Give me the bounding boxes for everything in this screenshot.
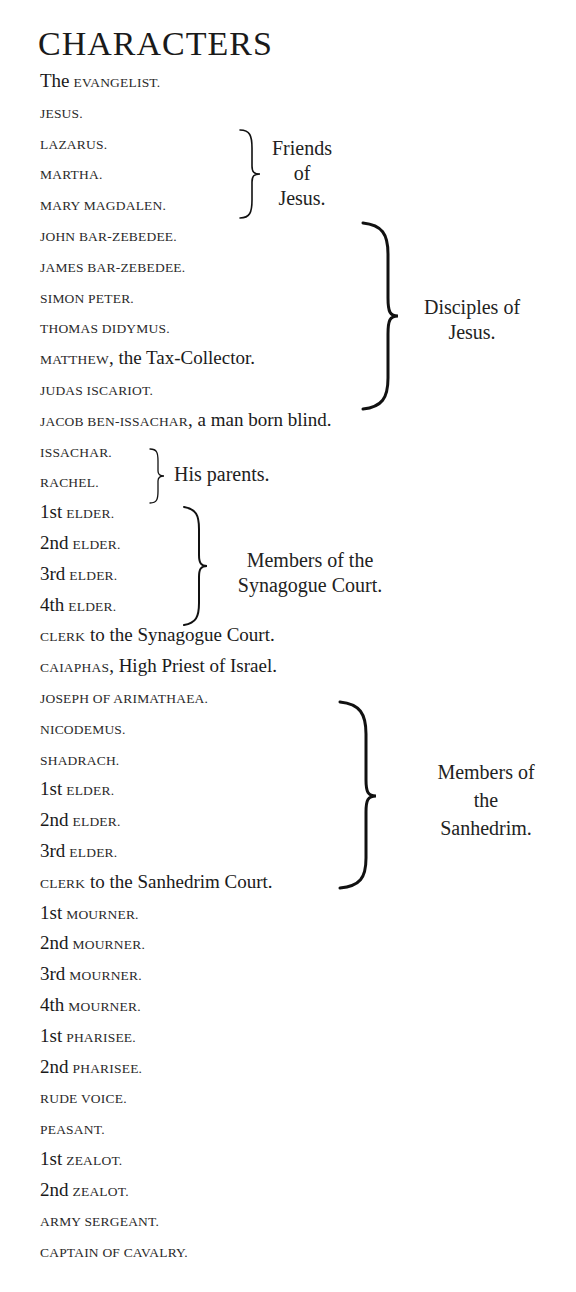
- character-ordinal: 2nd: [40, 1056, 69, 1077]
- character-ordinal: 1st: [40, 1025, 62, 1046]
- character-name: ELDER.: [69, 568, 117, 583]
- character-row: ARMY SERGEANT.: [40, 1205, 332, 1236]
- character-name: ZEALOT.: [66, 1153, 122, 1168]
- group-label-disciples: Disciples of Jesus.: [392, 295, 552, 345]
- character-name: THOMAS DIDYMUS.: [40, 321, 170, 336]
- label-line: Jesus.: [392, 320, 552, 345]
- page-title: CHARACTERS: [38, 24, 273, 64]
- character-ordinal: 2nd: [40, 932, 69, 953]
- label-line: the: [416, 786, 556, 814]
- character-name: RUDE VOICE.: [40, 1091, 127, 1106]
- character-row: JESUS.: [40, 97, 332, 128]
- character-description: , the Tax-Collector.: [109, 347, 255, 368]
- character-ordinal: 1st: [40, 1148, 62, 1169]
- character-row: JACOB BEN-ISSACHAR, a man born blind.: [40, 405, 332, 436]
- character-name: ELDER.: [66, 783, 114, 798]
- character-ordinal: The: [40, 70, 70, 91]
- character-row: CAIAPHAS, High Priest of Israel.: [40, 651, 332, 682]
- character-description: to the Synagogue Court.: [85, 624, 274, 645]
- character-name: JESUS.: [40, 106, 83, 121]
- brace-sanhedrim-icon: [336, 698, 378, 892]
- character-name: ISSACHAR.: [40, 445, 112, 460]
- character-row: SIMON PETER.: [40, 282, 332, 313]
- character-name: JUDAS ISCARIOT.: [40, 383, 153, 398]
- character-row: JAMES BAR-ZEBEDEE.: [40, 251, 332, 282]
- character-name: CLERK: [40, 876, 85, 891]
- character-description: , High Priest of Israel.: [109, 655, 277, 676]
- character-ordinal: 4th: [40, 594, 64, 615]
- character-name: EVANGELIST.: [74, 75, 161, 90]
- character-name: MOURNER.: [69, 968, 141, 983]
- group-label-sanhedrim: Members of the Sanhedrim.: [416, 758, 556, 842]
- character-row: NICODEMUS.: [40, 713, 332, 744]
- character-ordinal: 1st: [40, 778, 62, 799]
- character-name: RACHEL.: [40, 475, 99, 490]
- character-name: MOURNER.: [66, 907, 138, 922]
- character-ordinal: 1st: [40, 501, 62, 522]
- character-row: JOHN BAR-ZEBEDEE.: [40, 220, 332, 251]
- label-line: Synagogue Court.: [200, 573, 420, 598]
- character-description: to the Sanhedrim Court.: [85, 871, 272, 892]
- character-name: ELDER.: [68, 599, 116, 614]
- character-name: MARY MAGDALEN.: [40, 198, 166, 213]
- character-ordinal: 3rd: [40, 840, 65, 861]
- character-name: ARMY SERGEANT.: [40, 1214, 159, 1229]
- character-row: PEASANT.: [40, 1113, 332, 1144]
- character-row: 3rd MOURNER.: [40, 959, 332, 990]
- character-row: MATTHEW, the Tax-Collector.: [40, 343, 332, 374]
- group-label-friends: Friends of Jesus.: [260, 136, 344, 211]
- character-row: CLERK to the Sanhedrim Court.: [40, 867, 332, 898]
- label-line: Sanhedrim.: [416, 814, 556, 842]
- group-label-parents: His parents.: [174, 462, 314, 487]
- character-name: ELDER.: [73, 537, 121, 552]
- character-name: ZEALOT.: [73, 1184, 129, 1199]
- character-ordinal: 2nd: [40, 809, 69, 830]
- character-list: The EVANGELIST.JESUS.LAZARUS.MARTHA.MARY…: [40, 66, 332, 1267]
- character-ordinal: 2nd: [40, 1179, 69, 1200]
- label-line: Friends: [260, 136, 344, 161]
- character-name: SIMON PETER.: [40, 291, 134, 306]
- character-name: PHARISEE.: [66, 1030, 136, 1045]
- character-name: LAZARUS.: [40, 137, 107, 152]
- character-row: 2nd ZEALOT.: [40, 1175, 332, 1206]
- character-description: , a man born blind.: [188, 409, 332, 430]
- character-row: 3rd ELDER.: [40, 836, 332, 867]
- character-row: 1st ZEALOT.: [40, 1144, 332, 1175]
- group-label-synagogue: Members of the Synagogue Court.: [200, 548, 420, 598]
- character-name: MOURNER.: [68, 999, 140, 1014]
- label-line: Members of: [416, 758, 556, 786]
- character-name: MATTHEW: [40, 352, 109, 367]
- character-name: ELDER.: [66, 506, 114, 521]
- character-name: CLERK: [40, 629, 85, 644]
- character-name: JOSEPH OF ARIMATHAEA.: [40, 691, 208, 706]
- character-ordinal: 4th: [40, 994, 64, 1015]
- label-line: Members of the: [200, 548, 420, 573]
- character-row: 1st PHARISEE.: [40, 1021, 332, 1052]
- character-name: ELDER.: [73, 814, 121, 829]
- label-line: Jesus.: [260, 186, 344, 211]
- character-name: SHADRACH.: [40, 753, 119, 768]
- character-ordinal: 3rd: [40, 563, 65, 584]
- character-name: NICODEMUS.: [40, 722, 126, 737]
- character-row: CAPTAIN OF CAVALRY.: [40, 1236, 332, 1267]
- character-row: JOSEPH OF ARIMATHAEA.: [40, 682, 332, 713]
- character-name: MOURNER.: [73, 937, 145, 952]
- character-row: 2nd MOURNER.: [40, 928, 332, 959]
- character-name: CAPTAIN OF CAVALRY.: [40, 1245, 188, 1260]
- character-ordinal: 3rd: [40, 963, 65, 984]
- character-ordinal: 1st: [40, 902, 62, 923]
- character-row: SHADRACH.: [40, 744, 332, 775]
- character-row: 4th MOURNER.: [40, 990, 332, 1021]
- character-row: 1st ELDER.: [40, 774, 332, 805]
- character-name: CAIAPHAS: [40, 660, 109, 675]
- label-line: Disciples of: [392, 295, 552, 320]
- character-row: RUDE VOICE.: [40, 1082, 332, 1113]
- character-row: THOMAS DIDYMUS.: [40, 312, 332, 343]
- character-row: 1st MOURNER.: [40, 898, 332, 929]
- character-name: MARTHA.: [40, 167, 102, 182]
- label-line: His parents.: [174, 462, 314, 487]
- character-row: JUDAS ISCARIOT.: [40, 374, 332, 405]
- brace-friends-icon: [238, 128, 262, 220]
- character-row: 2nd ELDER.: [40, 805, 332, 836]
- character-name: JOHN BAR-ZEBEDEE.: [40, 229, 177, 244]
